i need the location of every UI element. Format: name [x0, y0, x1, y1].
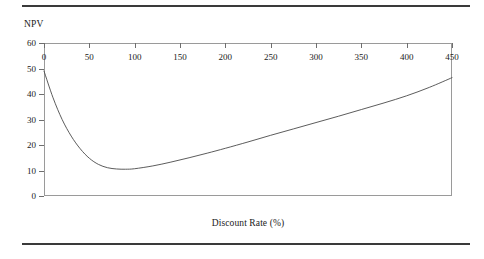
y-tick-label: 0	[32, 191, 37, 201]
bottom-horizontal-rule	[22, 243, 470, 245]
y-tick-label: 30	[27, 115, 36, 125]
y-tick-label: 60	[27, 38, 36, 48]
y-axis-title: NPV	[24, 19, 44, 29]
plot-area: 0102030405060 05010015020025030035040045…	[44, 43, 452, 196]
top-horizontal-rule	[22, 5, 470, 7]
npv-discount-rate-figure: NPV 0102030405060 0501001502002503003504…	[0, 0, 484, 259]
npv-curve	[44, 43, 452, 196]
y-tick-label: 10	[27, 166, 36, 176]
y-tick-label: 50	[27, 64, 36, 74]
y-tick-label: 20	[27, 140, 36, 150]
x-tick-mark	[452, 43, 453, 48]
y-tick-mark	[39, 196, 44, 197]
y-tick-label: 40	[27, 89, 36, 99]
x-axis-title: Discount Rate (%)	[44, 218, 452, 228]
